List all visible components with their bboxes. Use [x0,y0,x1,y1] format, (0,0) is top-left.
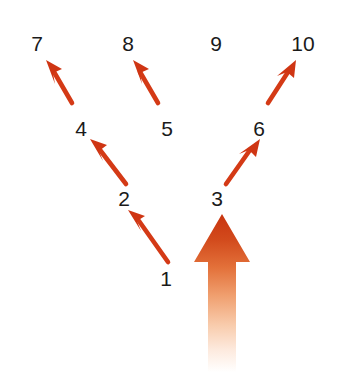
node-label-1: 1 [160,268,172,289]
arrow-vector-layer [0,0,340,372]
arrow-5-to-8 [133,60,158,103]
node-label-9: 9 [210,33,222,54]
node-label-7: 7 [31,33,43,54]
node-label-4: 4 [75,118,87,139]
node-label-2: 2 [118,188,130,209]
node-label-8: 8 [122,33,134,54]
node-label-5: 5 [161,118,173,139]
diagram-canvas: 1 2 3 4 5 6 7 8 9 10 [0,0,340,372]
arrow-2-to-4 [90,139,126,184]
main-upward-arrow [194,214,250,372]
node-label-6: 6 [253,118,265,139]
node-label-3: 3 [211,188,223,209]
arrow-6-to-10 [268,60,296,103]
node-label-10: 10 [291,33,314,54]
arrow-1-to-2 [128,210,168,262]
arrow-3-to-6 [226,139,260,184]
arrow-4-to-7 [46,60,72,103]
